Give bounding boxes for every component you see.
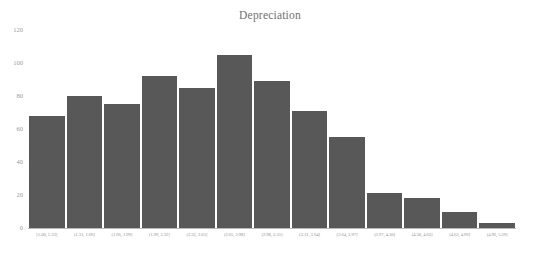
y-tick-label: 0 [20, 225, 23, 232]
histogram-bar [178, 88, 216, 228]
x-tick-label: (3.31, 3.64] [291, 232, 329, 246]
histogram-bar [441, 212, 479, 228]
histogram-bar [253, 81, 291, 228]
x-axis-tick-labels: [1.00, 1.33](1.33, 1.66](1.66, 1.99](1.9… [28, 232, 516, 246]
y-tick-label: 120 [13, 27, 23, 34]
y-tick-label: 20 [17, 192, 24, 199]
x-tick-label: (1.99, 2.32] [141, 232, 179, 246]
x-tick-label: (4.96, 5.29] [478, 232, 516, 246]
x-tick-label: (2.98, 3.31] [253, 232, 291, 246]
y-tick-label: 80 [17, 93, 24, 100]
histogram-bar [291, 111, 329, 228]
histogram-bar [366, 193, 404, 228]
y-tick-label: 100 [13, 60, 23, 67]
x-axis-line [28, 228, 516, 229]
x-tick-label: (2.65, 2.98] [216, 232, 254, 246]
x-tick-label: (4.30, 4.63] [403, 232, 441, 246]
y-axis: 020406080100120 [0, 0, 28, 255]
x-tick-label: (1.66, 1.99] [103, 232, 141, 246]
x-tick-label: [1.00, 1.33] [28, 232, 66, 246]
histogram-bar [328, 137, 366, 228]
histogram-figure: Depreciation 020406080100120 [1.00, 1.33… [0, 0, 540, 255]
bar-series [28, 30, 516, 228]
x-tick-label: (3.97, 4.30] [366, 232, 404, 246]
x-tick-label: (1.33, 1.66] [66, 232, 104, 246]
histogram-bar [66, 96, 104, 228]
histogram-bar [103, 104, 141, 228]
histogram-bar [28, 116, 66, 228]
y-tick-label: 40 [17, 159, 24, 166]
histogram-bar [141, 76, 179, 228]
x-tick-label: (2.32, 2.65] [178, 232, 216, 246]
histogram-bar [403, 198, 441, 228]
x-tick-label: (4.63, 4.96] [441, 232, 479, 246]
plot-area [28, 30, 516, 228]
chart-title: Depreciation [0, 9, 540, 21]
x-tick-label: (3.64, 3.97] [328, 232, 366, 246]
histogram-bar [216, 55, 254, 228]
y-tick-label: 60 [17, 126, 24, 133]
